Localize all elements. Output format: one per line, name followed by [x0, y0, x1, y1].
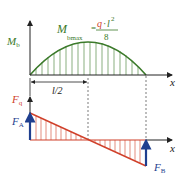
shear-diagram: Fq FA x FB: [11, 93, 175, 175]
formula-dot: ·: [103, 18, 106, 29]
formula-q: q: [97, 18, 102, 29]
moment-curve: [30, 42, 146, 75]
reaction-b-label: FB: [153, 161, 166, 175]
moment-x-label: x: [169, 76, 175, 88]
max-moment-sub: bmax: [67, 34, 83, 42]
reaction-a-label: FA: [11, 115, 24, 129]
moment-axis-label: Mb: [6, 35, 20, 49]
moment-hatching: [36, 42, 138, 75]
formula-l: l: [107, 18, 110, 29]
dimension-label: l/2: [52, 85, 63, 96]
formula-denominator: 8: [104, 32, 109, 42]
shear-axis-label: Fq: [11, 93, 23, 107]
moment-diagram: Mb x M bmax = q · l 2 8: [6, 15, 175, 88]
dimension-half-span: l/2: [30, 76, 146, 140]
formula-exp: 2: [111, 15, 115, 23]
shear-x-label: x: [169, 142, 175, 154]
formula-equals: =: [91, 23, 96, 33]
beam-moment-shear-diagram: Mb x M bmax = q · l 2 8 l/2: [0, 0, 186, 183]
